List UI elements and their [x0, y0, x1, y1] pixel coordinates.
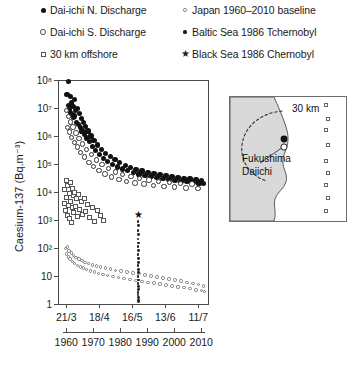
- data-point: [137, 242, 140, 245]
- y-tick-label: 10⁷: [37, 103, 52, 114]
- plot-frame-top: [58, 80, 209, 81]
- data-point: [101, 218, 106, 223]
- data-point: [137, 229, 140, 232]
- inset-offshore-marker: [326, 117, 330, 121]
- data-point: [194, 288, 197, 291]
- data-point: [189, 181, 194, 186]
- year-axis-tick: [174, 328, 175, 332]
- y-tick-label: 10⁸: [37, 75, 52, 86]
- data-point: [176, 285, 179, 288]
- data-point: [195, 186, 200, 191]
- y-tick-label: 10⁶: [37, 131, 52, 142]
- data-point: [183, 185, 188, 190]
- data-point: [117, 160, 122, 165]
- y-tick: [54, 304, 58, 305]
- data-point: [164, 283, 167, 286]
- data-point: [178, 181, 183, 186]
- y-tick: [54, 248, 58, 249]
- data-point: [70, 124, 75, 129]
- data-point: [137, 176, 142, 181]
- inset-scale-label: 30 km: [292, 103, 319, 114]
- date-axis-tick-label: 18/4: [89, 311, 109, 323]
- date-axis-tick: [66, 304, 67, 308]
- legend-label: 30 km offshore: [50, 48, 118, 60]
- plot-frame-right: [208, 80, 209, 304]
- year-axis-tick: [93, 328, 94, 332]
- date-axis-tick-label: 11/7: [188, 311, 208, 323]
- data-point: [137, 261, 140, 264]
- data-point: [122, 277, 125, 280]
- data-point: [114, 269, 117, 272]
- data-point: [137, 264, 140, 267]
- data-point: [197, 283, 200, 286]
- data-point: [84, 147, 89, 152]
- data-point: [96, 168, 101, 173]
- data-point: [104, 266, 107, 269]
- open-circle-icon: [36, 29, 50, 35]
- year-axis-tick: [66, 328, 67, 332]
- data-point: [161, 276, 164, 279]
- data-point: [131, 271, 134, 274]
- data-point: [67, 129, 72, 134]
- data-point: [120, 172, 125, 177]
- data-point: [137, 271, 140, 274]
- data-point: [146, 177, 151, 182]
- data-point-star: ★: [134, 210, 143, 220]
- data-point: [89, 152, 94, 157]
- data-point: [73, 130, 78, 135]
- year-axis-tick-label: 1970: [82, 336, 105, 348]
- legend-item-5: ★Black Sea 1986 Chernobyl: [178, 48, 314, 60]
- data-point: [146, 281, 149, 284]
- data-point: [117, 276, 120, 279]
- tiny-dot-icon: [178, 30, 192, 33]
- data-point: [128, 278, 131, 281]
- data-point: [113, 169, 118, 174]
- y-tick: [54, 220, 58, 221]
- data-point: [124, 179, 129, 184]
- data-point: [111, 275, 114, 278]
- data-point: [128, 174, 133, 179]
- data-point: [173, 278, 176, 281]
- data-point: [137, 220, 140, 223]
- data-point: [109, 174, 114, 179]
- legend-label: Dai-ichi S. Discharge: [50, 26, 146, 38]
- data-point: [106, 166, 111, 171]
- data-point: [95, 264, 98, 267]
- data-point: [89, 269, 92, 272]
- date-axis-tick: [198, 304, 199, 308]
- data-point: [80, 141, 85, 146]
- legend-label: Japan 1960–2010 baseline: [192, 4, 316, 16]
- data-point: [201, 181, 206, 186]
- site-marker-south: [281, 144, 287, 150]
- data-point: [185, 281, 188, 284]
- data-point: [93, 270, 96, 273]
- data-point: [137, 233, 140, 236]
- data-point: [94, 157, 99, 162]
- data-point: [132, 180, 137, 185]
- site-marker-north: [281, 136, 288, 143]
- figure-root: Dai-ichi N. DischargeDai-ichi S. Dischar…: [0, 0, 351, 371]
- data-point: [152, 281, 155, 284]
- legend-item-0: Dai-ichi N. Discharge: [36, 4, 147, 16]
- data-point: [137, 275, 140, 278]
- legend-label: Dai-ichi N. Discharge: [50, 4, 147, 16]
- date-axis-tick: [165, 304, 166, 308]
- data-point: [156, 179, 161, 184]
- y-tick: [54, 192, 58, 193]
- data-point: [82, 154, 87, 159]
- data-point: [203, 290, 206, 293]
- year-axis-tick: [147, 328, 148, 332]
- data-point: [149, 274, 152, 277]
- data-point: [82, 196, 87, 201]
- star-icon: ★: [178, 50, 192, 58]
- date-axis-tick-label: 16/5: [122, 311, 142, 323]
- data-point: [137, 245, 140, 248]
- open-square-icon: [36, 52, 50, 57]
- data-point: [179, 279, 182, 282]
- data-point: [72, 97, 77, 102]
- inset-offshore-marker: [326, 171, 330, 175]
- inset-offshore-marker: [324, 209, 328, 213]
- tiny-open-circle-icon: [178, 8, 192, 12]
- x-axis-line: [58, 304, 209, 305]
- data-point: [182, 286, 185, 289]
